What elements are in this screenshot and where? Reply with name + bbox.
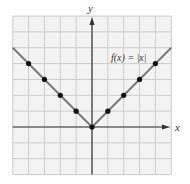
data-point <box>153 61 158 66</box>
data-point <box>58 93 63 98</box>
function-label: f(x) = |x| <box>111 52 147 64</box>
x-axis-label: x <box>174 121 180 133</box>
data-point <box>121 93 126 98</box>
y-axis-label: y <box>87 2 93 14</box>
data-point <box>42 77 47 82</box>
data-point <box>26 61 31 66</box>
data-point <box>89 124 94 129</box>
absolute-value-graph: f(x) = |x| x y <box>0 0 190 184</box>
data-point <box>137 77 142 82</box>
data-point <box>74 109 79 114</box>
data-point <box>105 109 110 114</box>
